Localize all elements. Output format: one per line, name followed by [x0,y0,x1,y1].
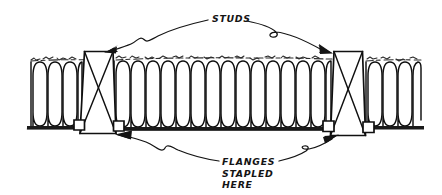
insulation-stud-figure: STUDS FLANGES STAPLED HERE [0,0,442,195]
flanges-leader-left [115,131,219,162]
flanges-callout: FLANGES STAPLED HERE [115,131,339,191]
studs-leader-left [104,20,208,54]
flanges-label-line2: STAPLED [222,168,274,179]
insulation-left-bay [31,62,82,126]
insulation-right-bay [366,62,421,126]
flanges-label-line1: FLANGES [222,156,275,167]
studs-callout: STUDS [104,13,333,54]
flanges-leader-right [279,135,339,162]
studs-label: STUDS [212,13,251,24]
flanges-label-line3: HERE [222,179,253,190]
insulation-center-bay [114,61,331,127]
studs-leader-right [247,21,333,54]
